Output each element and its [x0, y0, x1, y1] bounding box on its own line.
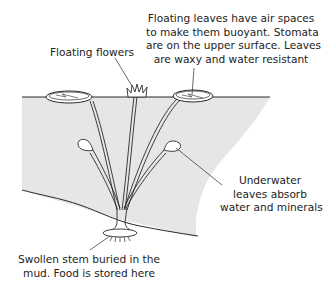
label-floating-leaves: Floating leaves have air spaces to make …	[146, 12, 316, 66]
label-floating-flowers: Floating flowers	[50, 46, 134, 60]
water-lily-diagram: Floating flowers Floating leaves have ai…	[0, 0, 325, 297]
label-swollen-stem: Swollen stem buried in the mud. Food is …	[18, 253, 160, 280]
water-region	[22, 97, 270, 237]
label-underwater-leaves: Underwater leaves absorb water and miner…	[220, 174, 320, 215]
pointer-floating-flowers	[115, 58, 132, 86]
floating-flower	[127, 84, 147, 97]
swollen-stem	[103, 229, 137, 242]
floating-leaf-left	[46, 91, 92, 103]
pointer-swollen-stem	[90, 236, 110, 250]
floating-leaf-right	[173, 90, 213, 102]
